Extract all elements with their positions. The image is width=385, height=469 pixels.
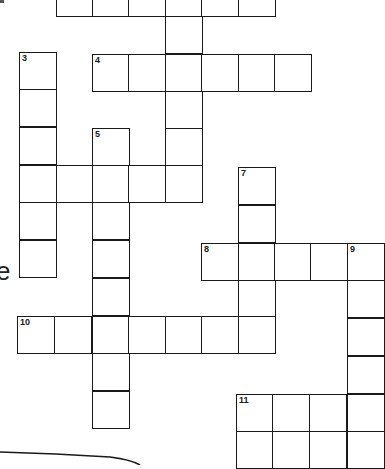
hand-drawn-line — [0, 0, 380, 465]
